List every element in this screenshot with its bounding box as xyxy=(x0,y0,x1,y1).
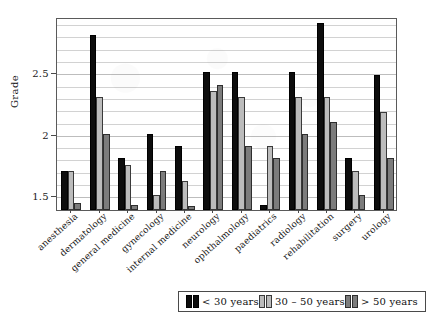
bar-group xyxy=(232,19,252,210)
bar xyxy=(175,146,182,210)
bar xyxy=(90,35,97,210)
legend-label-under-30: < 30 years xyxy=(202,296,259,307)
bar xyxy=(260,205,267,210)
y-tick-label: 1.5 xyxy=(32,191,49,202)
bar xyxy=(68,171,75,210)
bar xyxy=(267,146,274,210)
bar-group xyxy=(317,19,337,210)
bar xyxy=(210,91,217,210)
bar xyxy=(245,146,252,210)
bar-group xyxy=(61,19,81,210)
x-axis: anesthesiadermatologygeneral medicinegyn… xyxy=(0,211,418,291)
bar xyxy=(238,97,245,210)
bar xyxy=(330,122,337,211)
bar xyxy=(387,158,394,210)
bar-group xyxy=(147,19,167,210)
bar-group xyxy=(175,19,195,210)
legend-label-30-50: 30 – 50 years xyxy=(275,296,345,307)
bar xyxy=(118,158,125,210)
bar xyxy=(147,134,154,210)
bars-layer xyxy=(57,19,396,210)
bar xyxy=(61,171,68,210)
bar xyxy=(96,97,103,210)
y-axis: 1.522.5 xyxy=(0,0,56,215)
legend-swatch-black-2-icon xyxy=(193,295,199,308)
bar-group xyxy=(260,19,280,210)
bar xyxy=(74,203,81,210)
bar xyxy=(131,205,138,210)
bar xyxy=(103,134,110,210)
bar xyxy=(352,171,359,210)
bar xyxy=(324,97,331,210)
legend-item-under-30: < 30 years xyxy=(186,295,259,308)
bar xyxy=(345,158,352,210)
bar xyxy=(203,72,210,210)
bar-group xyxy=(203,19,223,210)
legend-swatch-light-icon xyxy=(259,295,265,308)
bar-group xyxy=(118,19,138,210)
y-tick-label: 2.5 xyxy=(32,68,49,79)
x-tick-label: urology xyxy=(359,211,392,243)
bar xyxy=(289,72,296,210)
x-tick-label: surgery xyxy=(330,211,364,243)
legend-swatch-light-2-icon xyxy=(266,295,272,308)
legend-item-30-50: 30 – 50 years xyxy=(259,295,345,308)
legend-label-over-50: > 50 years xyxy=(361,296,418,307)
bar xyxy=(380,112,387,210)
bar xyxy=(182,181,189,211)
bar xyxy=(295,97,302,210)
bar xyxy=(302,134,309,210)
bar xyxy=(160,171,167,210)
bar xyxy=(153,195,160,210)
legend-swatch-black-icon xyxy=(186,295,192,308)
bar-group xyxy=(90,19,110,210)
bar xyxy=(217,85,224,210)
y-tick-label: 2 xyxy=(42,129,49,140)
bar xyxy=(125,165,132,211)
legend-swatch-dark-icon xyxy=(345,295,351,308)
bar xyxy=(232,72,239,210)
plot-area xyxy=(56,18,397,211)
legend-swatch-dark-2-icon xyxy=(352,295,358,308)
bar xyxy=(188,206,195,210)
bar xyxy=(359,195,366,210)
bar xyxy=(317,23,324,210)
legend-item-over-50: > 50 years xyxy=(345,295,418,308)
chart-legend: < 30 years 30 – 50 years > 50 years xyxy=(178,291,426,312)
bar-group xyxy=(289,19,309,210)
x-tick-label: rehabilitation xyxy=(281,211,336,262)
bar-group xyxy=(345,19,365,210)
bar-group xyxy=(374,19,394,210)
bar xyxy=(374,75,381,210)
bar xyxy=(273,158,280,210)
